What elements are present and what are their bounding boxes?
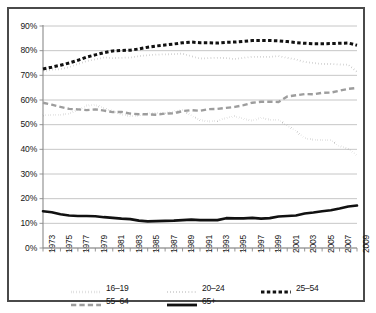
- legend-item[interactable]: 65+: [167, 296, 216, 306]
- legend-label: 25–54: [296, 283, 319, 293]
- legend-swatch: [167, 296, 197, 306]
- line-chart-plot: [9, 9, 367, 304]
- legend-swatch: [71, 296, 101, 306]
- legend-row: 55–6465+: [71, 294, 331, 307]
- legend-label: 65+: [202, 296, 216, 306]
- legend-label: 20–24: [202, 283, 225, 293]
- chart-frame: 0%10%20%30%40%50%60%70%80%90% 1973197519…: [7, 7, 365, 302]
- legend-item[interactable]: 55–64: [71, 296, 129, 306]
- series-line-25-54: [43, 41, 357, 69]
- legend-swatch: [261, 283, 291, 293]
- legend-item[interactable]: 20–24: [167, 283, 225, 293]
- legend-label: 55–64: [106, 296, 129, 306]
- series-line-55-64: [43, 88, 357, 115]
- legend-item[interactable]: 25–54: [261, 283, 319, 293]
- series-line-16-19: [43, 105, 357, 155]
- legend-item[interactable]: 16–19: [71, 283, 129, 293]
- legend-row: 16–1920–2425–54: [71, 281, 331, 294]
- series-line-65+: [43, 206, 357, 222]
- chart-legend: 16–1920–2425–5455–6465+: [71, 281, 331, 307]
- legend-label: 16–19: [106, 283, 129, 293]
- legend-swatch: [167, 283, 197, 293]
- legend-swatch: [71, 283, 101, 293]
